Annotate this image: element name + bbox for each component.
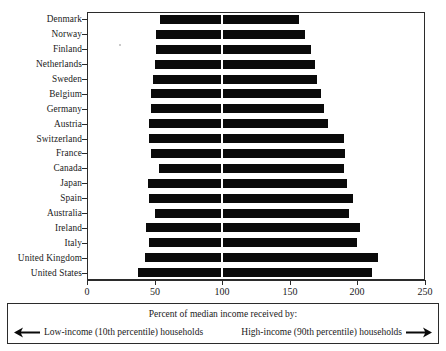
bar-segment-low-income <box>156 30 221 39</box>
bar-segment-low-income <box>156 45 221 54</box>
y-axis-label: Belgium <box>0 89 82 99</box>
bar-segment-high-income <box>223 209 349 218</box>
x-axis-tick-label: 200 <box>337 286 377 298</box>
arrow-right-icon <box>406 326 432 339</box>
y-axis-label: Sweden <box>0 74 82 84</box>
bar-segment-high-income <box>223 164 344 173</box>
bar-segment-high-income <box>223 104 324 113</box>
y-axis-label: Norway <box>0 29 82 39</box>
bar-segment-low-income <box>149 194 221 203</box>
bars-layer <box>87 12 425 280</box>
arrow-left-icon <box>14 326 40 339</box>
bar-segment-low-income <box>138 268 221 277</box>
bar-segment-low-income <box>151 149 222 158</box>
income-distribution-chart: DenmarkNorwayFinlandNetherlandsSwedenBel… <box>0 0 446 351</box>
legend-box: Percent of median income received by: Lo… <box>7 303 439 344</box>
y-axis-label: Canada <box>0 163 82 173</box>
x-axis-tick <box>222 280 223 285</box>
y-axis-label: Germany <box>0 104 82 114</box>
bar-segment-high-income <box>223 223 360 232</box>
bar-segment-low-income <box>153 75 221 84</box>
bar-segment-high-income <box>223 134 344 143</box>
y-axis-label: Ireland <box>0 223 82 233</box>
bar-segment-high-income <box>223 238 357 247</box>
bar-segment-high-income <box>223 45 311 54</box>
bar-segment-low-income <box>148 179 222 188</box>
bar-segment-low-income <box>151 89 222 98</box>
bar-segment-low-income <box>160 15 221 24</box>
y-axis-label: Australia <box>0 208 82 218</box>
x-axis-tick-label: 50 <box>135 286 175 298</box>
legend-left-label: Low-income (10th percentile) households <box>44 326 203 339</box>
y-axis-label: Austria <box>0 119 82 129</box>
bar-segment-high-income <box>223 60 315 69</box>
y-axis-label: United States <box>0 268 82 278</box>
bar-segment-low-income <box>159 164 222 173</box>
y-axis-label: Switzerland <box>0 134 82 144</box>
y-axis-label: Spain <box>0 193 82 203</box>
legend-row: Low-income (10th percentile) households … <box>14 325 432 341</box>
y-axis-label: Finland <box>0 44 82 54</box>
bar-segment-low-income <box>146 223 221 232</box>
y-axis-label: Denmark <box>0 14 82 24</box>
y-axis-label: France <box>0 148 82 158</box>
bar-segment-low-income <box>155 209 222 218</box>
bar-segment-high-income <box>223 15 299 24</box>
x-axis-tick <box>87 280 88 285</box>
bar-segment-high-income <box>223 75 317 84</box>
y-axis-label: Japan <box>0 178 82 188</box>
bar-segment-high-income <box>223 179 347 188</box>
legend-title: Percent of median income received by: <box>8 308 438 320</box>
bar-segment-high-income <box>223 119 328 128</box>
bar-segment-high-income <box>223 268 372 277</box>
y-axis-label: United Kingdom <box>0 253 82 263</box>
x-axis-tick <box>155 280 156 285</box>
x-axis-tick-label: 250 <box>405 286 445 298</box>
bar-segment-low-income <box>149 238 221 247</box>
bar-segment-high-income <box>223 149 345 158</box>
scan-artifact-speck <box>119 44 121 46</box>
bar-segment-low-income <box>155 60 222 69</box>
x-axis-line <box>87 280 425 281</box>
bar-segment-high-income <box>223 194 353 203</box>
bar-segment-low-income <box>149 119 221 128</box>
y-axis-label: Italy <box>0 238 82 248</box>
y-axis-label: Netherlands <box>0 59 82 69</box>
x-axis-tick <box>357 280 358 285</box>
x-axis-tick <box>290 280 291 285</box>
bar-segment-low-income <box>145 253 221 262</box>
bar-segment-high-income <box>223 30 305 39</box>
bar-segment-low-income <box>149 134 221 143</box>
x-axis-tick-label: 150 <box>270 286 310 298</box>
x-axis-tick-label: 0 <box>67 286 107 298</box>
legend-right-label: High-income (90th percentile) households <box>241 326 402 339</box>
x-axis-tick <box>425 280 426 285</box>
bar-segment-high-income <box>223 89 321 98</box>
y-axis-labels: DenmarkNorwayFinlandNetherlandsSwedenBel… <box>0 12 82 280</box>
x-axis-tick-label: 100 <box>202 286 242 298</box>
bar-segment-high-income <box>223 253 378 262</box>
bar-segment-low-income <box>151 104 222 113</box>
